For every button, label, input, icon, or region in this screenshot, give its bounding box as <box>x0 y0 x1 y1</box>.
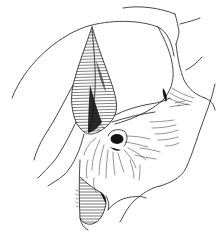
left-strands <box>34 85 170 186</box>
right-fibrous-region <box>120 84 215 222</box>
central-opening <box>108 130 127 151</box>
fibrous-texture <box>84 122 150 192</box>
illustration-svg <box>0 0 223 234</box>
hatched-leaf-structure <box>60 27 125 134</box>
anatomical-illustration <box>0 0 223 234</box>
